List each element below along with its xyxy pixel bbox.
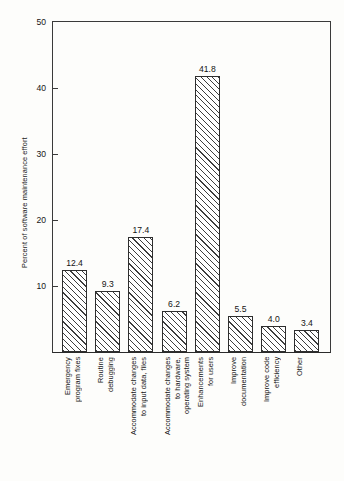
y-tick-label: 20: [24, 215, 46, 225]
bar-value-labels: 12.49.317.46.241.85.54.03.4: [53, 0, 330, 360]
x-category-label: Accommodate changes to hardware, operati…: [163, 357, 192, 477]
x-axis-category-labels: Emergency program fixesRoutine debugging…: [53, 357, 330, 481]
y-tick-mark: [52, 286, 58, 287]
y-tick-mark: [52, 154, 58, 155]
y-tick-label: 50: [24, 17, 46, 27]
bar-value-label: 4.0: [268, 314, 280, 324]
y-tick-mark: [52, 88, 58, 89]
y-tick-mark: [52, 220, 58, 221]
bar-chart: Percent of software maintenance effort 1…: [0, 0, 344, 481]
x-category-label: Other: [295, 357, 324, 477]
bar-value-label: 5.5: [235, 304, 247, 314]
x-category-label: Enhancements for users: [196, 357, 225, 477]
bar-value-label: 6.2: [168, 299, 180, 309]
y-tick-label: 10: [24, 281, 46, 291]
x-category-label: Improve documentation: [229, 357, 258, 477]
x-category-label: Improve code efficiency: [262, 357, 291, 477]
bar-value-label: 9.3: [102, 279, 114, 289]
bar-value-label: 12.4: [66, 258, 83, 268]
x-category-label: Emergency program fixes: [63, 357, 92, 477]
bar-value-label: 41.8: [199, 64, 216, 74]
x-category-label: Routine debugging: [96, 357, 125, 477]
y-tick-label: 30: [24, 149, 46, 159]
y-axis-tick-labels: 1020304050: [20, 0, 46, 481]
bar-value-label: 17.4: [133, 225, 150, 235]
bar-value-label: 3.4: [301, 318, 313, 328]
x-category-label: Accommodate changes to input data, files: [129, 357, 158, 477]
y-tick-label: 40: [24, 83, 46, 93]
